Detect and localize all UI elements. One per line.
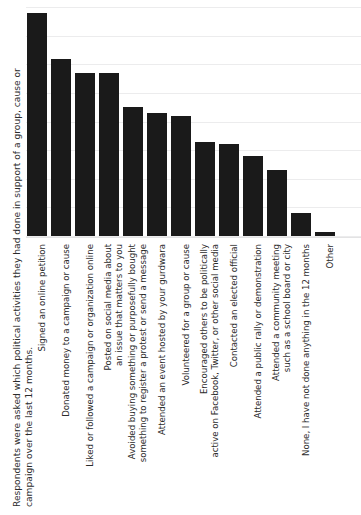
caption-line-1: Respondents were asked which political a…	[11, 68, 24, 507]
x-axis-label-line: Encouraged others to be politically	[199, 244, 210, 458]
bar[interactable]	[219, 144, 239, 236]
bar[interactable]	[123, 107, 143, 236]
bar[interactable]	[267, 170, 287, 236]
x-axis-label-line: Contacted an elected official	[229, 244, 240, 367]
x-axis-label-line: Posted on social media about	[103, 244, 114, 370]
x-axis-label-line: Volunteered for a group or cause	[181, 244, 192, 385]
plot-area	[26, 0, 361, 238]
x-axis-label-line: such as a school board or city	[283, 244, 294, 381]
bar[interactable]	[291, 213, 311, 236]
x-axis-label-line: an issue that matters to you	[115, 244, 126, 370]
bar[interactable]	[171, 116, 191, 236]
x-axis-label-line: None, I have not done anything in the 12…	[301, 244, 312, 456]
bar[interactable]	[315, 232, 335, 236]
x-axis-label-line: Avoided buying something or purposefully…	[127, 244, 138, 462]
x-axis-label-line: Attended a public rally or demonstration	[253, 244, 264, 419]
x-axis-label-line: Attended a community meeting	[271, 244, 282, 381]
gridline	[26, 7, 361, 8]
bar[interactable]	[147, 113, 167, 236]
bar[interactable]	[27, 13, 47, 236]
gridline	[26, 36, 361, 37]
x-axis-label-line: Other	[325, 244, 336, 268]
gridline	[26, 64, 361, 65]
x-axis-label-line: Attended an event hosted by your gurdwar…	[157, 244, 168, 435]
x-axis-labels: Signed an online petitionDonated money t…	[26, 238, 361, 515]
bar[interactable]	[51, 59, 71, 236]
x-axis-label-line: Signed an online petition	[37, 244, 48, 352]
x-axis-label-line: Liked or followed a campaign or organiza…	[85, 244, 96, 467]
bar[interactable]	[99, 73, 119, 236]
chart-caption: Respondents were asked which political a…	[0, 0, 26, 515]
x-axis-label-line: Donated money to a campaign or cause	[61, 244, 72, 417]
x-axis-label-line: something to register a protest or send …	[139, 244, 150, 462]
bar[interactable]	[243, 156, 263, 236]
chart-page: Respondents were asked which political a…	[0, 0, 361, 515]
bar[interactable]	[195, 142, 215, 236]
x-axis-label-line: active on Facebook, Twitter, or other so…	[211, 244, 222, 458]
bar[interactable]	[75, 73, 95, 236]
